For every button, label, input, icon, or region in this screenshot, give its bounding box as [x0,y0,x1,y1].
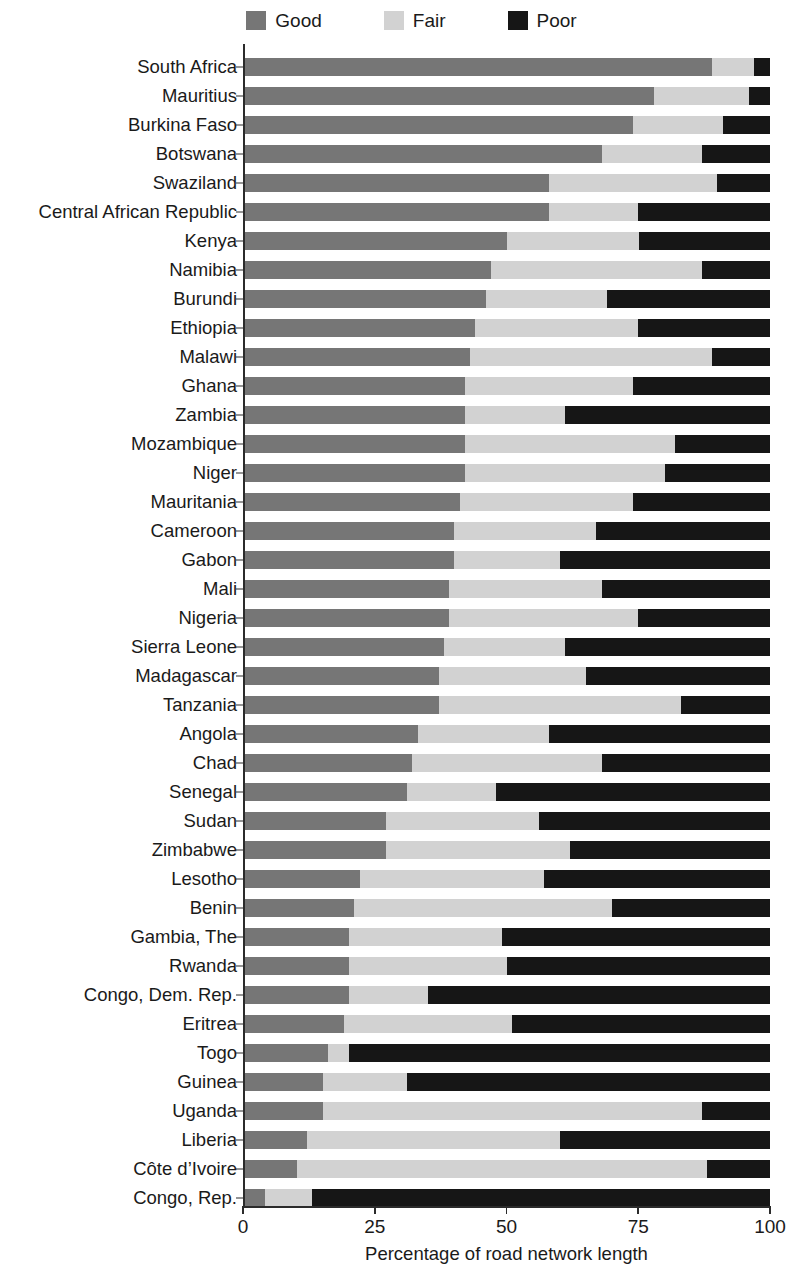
y-axis-tick [236,617,243,618]
chart-row: Cameroon [0,516,783,545]
chart-row: Niger [0,458,783,487]
bar-segment-good [244,145,602,163]
y-axis-tick [236,501,243,502]
chart-row: Nigeria [0,603,783,632]
y-axis-tick [236,646,243,647]
chart-row: Uganda [0,1096,783,1125]
chart-row: Sierra Leone [0,632,783,661]
chart-row: Rwanda [0,951,783,980]
y-axis-tick [236,762,243,763]
stacked-bar [244,435,770,453]
legend-label-good: Good [275,11,321,30]
category-label: Madagascar [135,666,237,686]
bar-segment-fair [328,1044,349,1062]
bar-segment-poor [539,812,770,830]
y-axis-tick [236,472,243,473]
bar-segment-fair [323,1073,407,1091]
stacked-bar [244,493,770,511]
stacked-bar [244,1102,770,1120]
y-axis-tick [236,385,243,386]
bar-segment-poor [596,522,770,540]
category-label: Botswana [156,144,237,164]
bar-segment-fair [444,638,565,656]
bar-segment-poor [712,348,770,366]
category-label: Togo [197,1043,237,1063]
category-label: Mauritania [151,492,237,512]
stacked-bar [244,377,770,395]
x-axis-tick [769,1206,771,1214]
bar-segment-poor [675,435,770,453]
bar-segment-poor [586,667,770,685]
stacked-bar [244,1189,770,1207]
bar-segment-fair [407,783,496,801]
x-axis-tick-label: 0 [238,1216,249,1238]
bar-segment-poor [496,783,770,801]
bar-segment-fair [454,522,596,540]
bar-segment-poor [723,116,770,134]
bar-segment-fair [349,957,507,975]
bar-segment-fair [549,174,717,192]
category-label: Mali [203,579,237,599]
bar-segment-poor [638,319,770,337]
chart-row: Lesotho [0,864,783,893]
bar-segment-poor [565,406,770,424]
stacked-bar [244,899,770,917]
y-axis-tick [236,965,243,966]
stacked-bar [244,1160,770,1178]
y-axis-tick [236,153,243,154]
bar-segment-poor [560,551,770,569]
chart-row: Senegal [0,777,783,806]
bar-segment-fair [386,841,570,859]
bar-segment-good [244,464,465,482]
bar-segment-poor [665,464,770,482]
bar-segment-poor [560,1131,770,1149]
y-axis-tick [236,820,243,821]
stacked-bar [244,348,770,366]
bar-segment-fair [265,1189,312,1207]
bar-segment-fair [654,87,749,105]
chart-row: Mozambique [0,429,783,458]
x-axis-tick-label: 25 [364,1216,385,1238]
y-axis-tick [236,1110,243,1111]
chart-row: Angola [0,719,783,748]
category-label: Swaziland [153,173,237,193]
stacked-bar [244,551,770,569]
bar-segment-good [244,116,633,134]
legend-label-poor: Poor [537,11,577,30]
chart-row: Mali [0,574,783,603]
bar-segment-good [244,493,460,511]
legend-swatch-poor-icon [508,11,528,30]
bar-segment-good [244,928,349,946]
chart-row: Guinea [0,1067,783,1096]
bar-segment-good [244,1073,323,1091]
bar-segment-good [244,696,439,714]
y-axis-tick [236,675,243,676]
chart-row: Tanzania [0,690,783,719]
bar-segment-poor [707,1160,770,1178]
legend-item-good: Good [246,11,321,30]
bar-segment-fair [633,116,722,134]
chart-row: Kenya [0,226,783,255]
bar-segment-fair [344,1015,512,1033]
bar-segment-good [244,522,454,540]
bar-segment-fair [465,435,675,453]
category-label: Cameroon [151,521,237,541]
y-axis-tick [236,704,243,705]
category-label: Rwanda [169,956,237,976]
bar-segment-fair [360,870,544,888]
bar-segment-poor [502,928,770,946]
bar-segment-fair [354,899,612,917]
bar-segment-good [244,87,654,105]
y-axis-tick [236,414,243,415]
bar-segment-good [244,203,549,221]
bar-segment-good [244,319,475,337]
y-axis-line [243,44,245,1208]
stacked-bar [244,58,770,76]
chart-row: Eritrea [0,1009,783,1038]
y-axis-tick [236,1052,243,1053]
chart-row: Gabon [0,545,783,574]
chart-row: Malawi [0,342,783,371]
category-label: Chad [193,753,237,773]
stacked-bar [244,667,770,685]
category-label: Sudan [184,811,238,831]
